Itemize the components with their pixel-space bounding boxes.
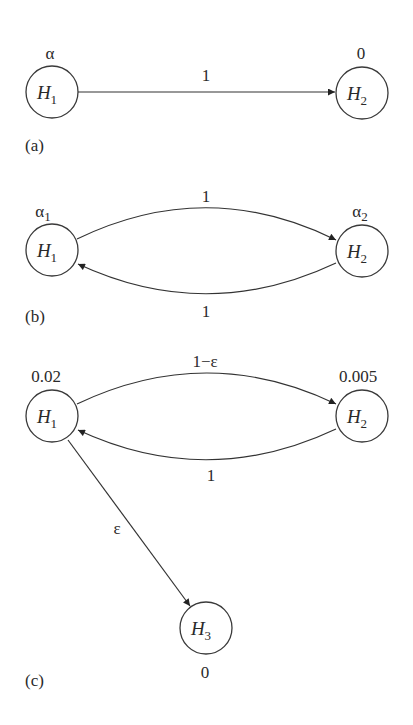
panel-c-label: (c) — [25, 671, 44, 690]
panel-b-label: (b) — [25, 307, 45, 326]
node-a-h1: H1 — [26, 66, 78, 118]
edge-b-h2-to-h1-label: 1 — [202, 302, 211, 321]
edge-c-h1-to-h3-label: ε — [113, 519, 120, 538]
edge-b-h1-to-h2 — [77, 208, 336, 240]
node-a-h2-sub: 2 — [361, 93, 368, 108]
node-c-h3-value: 0 — [201, 663, 210, 682]
state-transition-diagrams: 1 H1 α H2 0 (a) 1 1 H1 α1 — [0, 0, 413, 725]
edge-c-h2-to-h1 — [78, 429, 336, 460]
edge-c-h1-to-h3 — [68, 440, 190, 606]
node-a-h1-value: α — [46, 44, 55, 63]
node-c-h3-sub: 3 — [205, 628, 212, 643]
node-c-h2-value: 0.005 — [339, 367, 377, 386]
node-c-h1-name: H — [36, 406, 52, 427]
node-b-h2-value: α2 — [352, 202, 367, 224]
edge-c-h2-to-h1-label: 1 — [207, 466, 216, 485]
node-b-h1: H1 — [26, 224, 78, 276]
node-c-h1-value: 0.02 — [31, 367, 61, 386]
panel-c: 1−ε 1 ε H1 0.02 H2 0.005 H3 0 (c) — [25, 352, 388, 690]
panel-a: 1 H1 α H2 0 (a) — [25, 44, 388, 155]
panel-b: 1 1 H1 α1 H2 α2 (b) — [25, 187, 388, 326]
node-c-h2-name: H — [346, 406, 362, 427]
edge-b-h2-to-h1 — [78, 263, 336, 294]
node-c-h2: H2 — [336, 390, 388, 442]
panel-a-label: (a) — [25, 136, 44, 155]
node-a-h2-value: 0 — [357, 44, 366, 63]
edge-a-h1-to-h2-label: 1 — [202, 66, 211, 85]
edge-c-h1-to-h2-label: 1−ε — [192, 352, 217, 371]
node-b-h1-sub: 1 — [51, 250, 58, 265]
node-b-h2-sub: 2 — [361, 251, 368, 266]
node-b-h2-name: H — [346, 241, 362, 262]
edge-b-h1-to-h2-label: 1 — [202, 187, 211, 206]
node-c-h1: H1 — [26, 390, 78, 442]
node-c-h3-name: H — [190, 618, 206, 639]
node-b-h2: H2 — [336, 225, 388, 277]
node-a-h2: H2 — [336, 67, 388, 119]
node-c-h1-sub: 1 — [51, 416, 58, 431]
node-a-h1-name: H — [36, 82, 52, 103]
edge-c-h1-to-h2 — [77, 373, 336, 404]
node-c-h2-sub: 2 — [361, 416, 368, 431]
node-a-h2-name: H — [346, 83, 362, 104]
node-a-h1-sub: 1 — [51, 92, 58, 107]
node-c-h3: H3 — [180, 602, 232, 654]
node-b-h1-value: α1 — [35, 202, 50, 224]
node-b-h1-name: H — [36, 240, 52, 261]
